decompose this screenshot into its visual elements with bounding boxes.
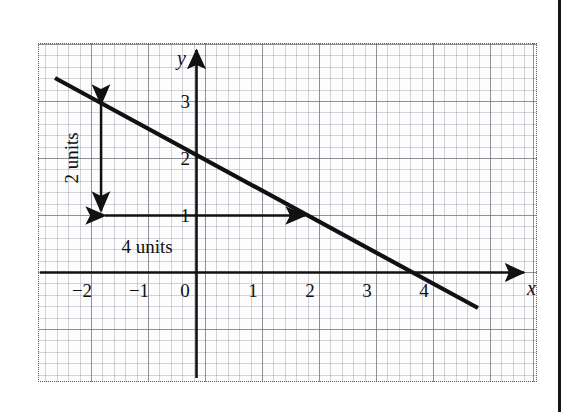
y-tick-label-3: 3 (181, 92, 191, 111)
run-annotation-label: 4 units (121, 236, 172, 258)
plot-overlay (0, 0, 574, 412)
y-tick-label-2: 2 (181, 149, 191, 168)
x-tick-label--2: −2 (72, 281, 92, 300)
rise-annotation-label: 2 units (61, 132, 83, 183)
page-edge-rule (558, 0, 561, 412)
x-tick-label-0: 0 (180, 281, 190, 300)
y-tick-label-1: 1 (181, 206, 191, 225)
y-axis-label: y (177, 48, 186, 68)
x-tick-label-4: 4 (419, 281, 429, 300)
x-tick-label-1: 1 (248, 281, 258, 300)
x-tick-label--1: −1 (129, 281, 149, 300)
x-tick-label-3: 3 (362, 281, 372, 300)
x-tick-label-2: 2 (305, 281, 315, 300)
x-axis-label: x (527, 278, 536, 298)
figure-page: −2 −1 0 1 2 3 4 1 2 3 y x 2 units 4 unit… (0, 0, 574, 412)
